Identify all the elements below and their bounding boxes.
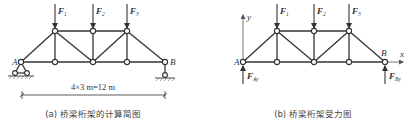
load-label-f2: F2 (316, 6, 326, 17)
load-label-f1: F1 (57, 6, 67, 17)
node-label-b: B (381, 48, 387, 58)
coordinate-axes (243, 15, 403, 62)
reaction-label-fby: FBy (388, 71, 401, 82)
support-label-a: A (11, 57, 18, 67)
figure-b-truss-free-body-diagram: y x F1 F2 F (233, 4, 404, 119)
truss-members-a (21, 31, 165, 62)
caption-a: (a) 桥梁桁架的计算简图 (45, 109, 141, 119)
support-label-b: B (170, 57, 176, 67)
axis-label-x: x (399, 49, 404, 59)
reaction-label-fay: FAy (246, 71, 259, 82)
span-dimension-label: 4×3 m=12 m (71, 82, 115, 92)
truss-diagrams: F1 F2 F3 A B 4×3 m=12 m (a) 桥梁桁架的计算简图 y … (0, 0, 416, 121)
axis-label-y: y (246, 12, 251, 22)
reaction-arrows (243, 66, 385, 84)
figure-a-truss-calculation-diagram: F1 F2 F3 A B 4×3 m=12 m (a) 桥梁桁架的计算简图 (8, 4, 176, 119)
load-label-f3: F3 (351, 6, 361, 17)
span-dimension-line (20, 91, 167, 99)
load-label-f3: F3 (129, 6, 139, 17)
load-label-f1: F1 (279, 6, 289, 17)
caption-b: (b) 桥梁桁架受力图 (274, 109, 352, 119)
load-label-f2: F2 (95, 6, 105, 17)
truss-members-b (243, 31, 385, 62)
node-label-a: A (233, 57, 240, 67)
